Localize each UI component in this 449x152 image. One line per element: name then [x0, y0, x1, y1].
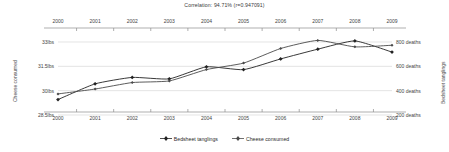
data-point-marker — [168, 79, 171, 82]
legend-marker-diamond-icon — [232, 135, 244, 142]
data-point-marker — [316, 39, 319, 42]
series-bedsheet-tanglings — [56, 39, 394, 101]
data-point-marker — [242, 68, 246, 72]
data-point-marker — [93, 82, 97, 86]
data-point-marker — [279, 47, 282, 50]
legend-item-bedsheet-tanglings[interactable]: Bedsheet tanglings — [160, 135, 218, 142]
data-point-marker — [205, 68, 208, 71]
legend-label: Bedsheet tanglings — [174, 136, 218, 142]
gridlines — [58, 42, 392, 115]
data-point-marker — [316, 47, 320, 51]
legend-marker-diamond-icon — [160, 135, 172, 142]
data-point-marker — [130, 76, 134, 80]
data-point-marker — [279, 57, 283, 61]
x-axis-bottom-ticks — [77, 109, 374, 112]
x-axis-top-ticks — [77, 28, 374, 31]
data-point-marker — [353, 45, 356, 48]
chart-legend: Bedsheet tanglings Cheese consumed — [0, 135, 449, 142]
legend-label: Cheese consumed — [246, 136, 289, 142]
data-point-marker — [94, 88, 97, 91]
plot-area — [0, 0, 449, 152]
series-cheese-consumed — [57, 39, 394, 96]
legend-item-cheese-consumed[interactable]: Cheese consumed — [232, 135, 289, 142]
data-point-marker — [131, 81, 134, 84]
data-point-marker — [242, 62, 245, 65]
data-point-marker — [390, 50, 394, 54]
series-layer — [56, 39, 394, 102]
data-point-marker — [56, 98, 60, 102]
data-point-marker — [391, 44, 394, 47]
chart-container: Correlation: 94.71% (r=0.947091) Cheese … — [0, 0, 449, 152]
data-point-marker — [57, 92, 60, 95]
axis-lines — [44, 28, 406, 112]
